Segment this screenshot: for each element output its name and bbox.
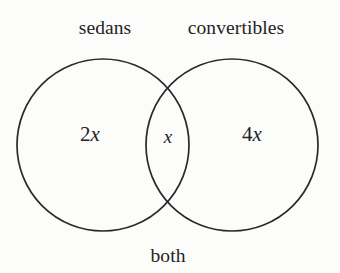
set-label-sedans: sedans — [79, 18, 132, 38]
set-label-convertibles: convertibles — [188, 18, 285, 38]
region-value-convertibles-only: 4 — [242, 122, 253, 146]
region-label-intersection: x — [164, 127, 172, 146]
region-variable-convertibles-only: x — [253, 122, 262, 146]
set-label-both: both — [150, 246, 185, 266]
region-value-sedans-only: 2 — [80, 122, 91, 146]
region-label-convertibles-only: 4x — [242, 124, 262, 145]
region-variable-intersection: x — [164, 126, 172, 147]
region-label-sedans-only: 2x — [80, 124, 100, 145]
region-variable-sedans-only: x — [91, 122, 100, 146]
venn-diagram: sedans convertibles 2x x 4x both — [0, 0, 340, 273]
